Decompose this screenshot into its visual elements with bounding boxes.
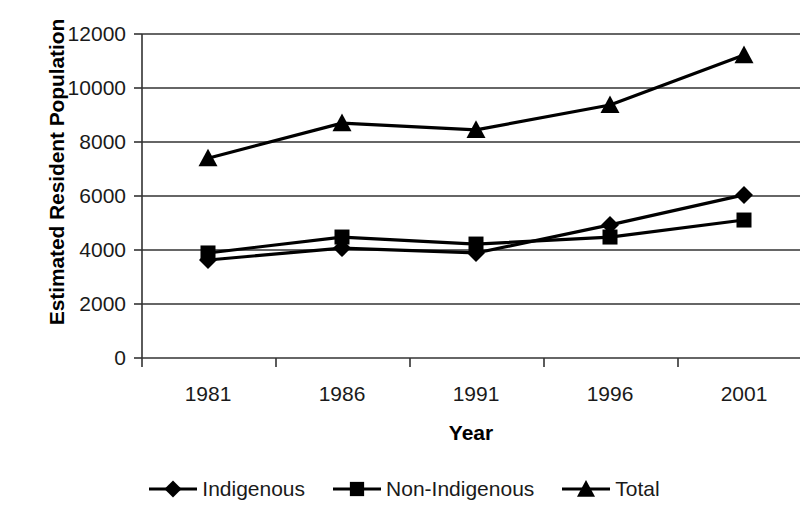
diamond-marker-icon	[735, 186, 753, 204]
square-marker-icon	[350, 482, 364, 496]
square-marker-icon	[603, 230, 618, 245]
x-axis-tick-label: 1986	[319, 382, 366, 406]
square-marker-icon	[737, 213, 752, 228]
y-axis-tick-label: 6000	[6, 184, 126, 208]
legend-label: Total	[615, 477, 659, 501]
series-total	[199, 46, 754, 167]
chart-legend: IndigenousNon-IndigenousTotal	[0, 476, 807, 502]
x-axis-tick-label: 1981	[185, 382, 232, 406]
x-axis-tick-label: 1996	[587, 382, 634, 406]
x-axis-tick-label: 1991	[453, 382, 500, 406]
legend-entry[interactable]: Total	[560, 476, 659, 502]
legend-entry[interactable]: Indigenous	[147, 476, 305, 502]
y-axis-tick-label: 4000	[6, 238, 126, 262]
legend-label: Non-Indigenous	[386, 477, 534, 501]
population-line-chart: Estimated Resident Population 1200010000…	[0, 0, 807, 514]
square-marker-icon	[331, 476, 383, 502]
series-line	[208, 55, 744, 158]
diamond-marker-icon	[147, 476, 199, 502]
y-axis-tick-label: 0	[6, 346, 126, 370]
diamond-marker-icon	[165, 480, 182, 497]
y-axis-tick-labels: 120001000080006000400020000	[0, 0, 126, 400]
plot-svg	[142, 34, 800, 358]
triangle-marker-icon	[601, 96, 620, 114]
y-axis-tick-label: 10000	[6, 76, 126, 100]
y-axis-tick-label: 12000	[6, 22, 126, 46]
x-axis-title: Year	[142, 421, 800, 445]
square-marker-icon	[335, 230, 350, 245]
triangle-marker-icon	[735, 46, 754, 64]
series-indigenous	[199, 186, 753, 269]
legend-entry[interactable]: Non-Indigenous	[331, 476, 534, 502]
square-marker-icon	[201, 245, 216, 260]
y-axis-tick-label: 2000	[6, 292, 126, 316]
legend-label: Indigenous	[202, 477, 305, 501]
plot-area	[142, 34, 800, 358]
x-axis-tick-labels: 19811986199119962001	[142, 382, 800, 412]
square-marker-icon	[469, 237, 484, 252]
triangle-marker-icon	[560, 476, 612, 502]
x-axis-tick-label: 2001	[721, 382, 768, 406]
y-axis-tick-label: 8000	[6, 130, 126, 154]
